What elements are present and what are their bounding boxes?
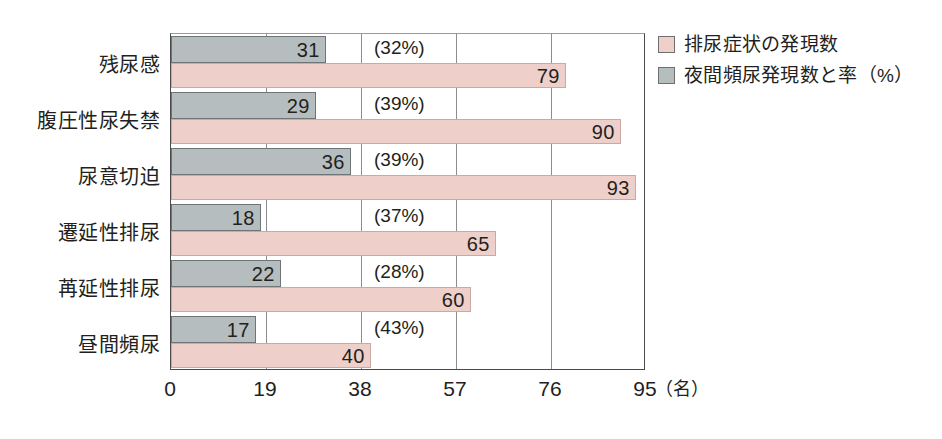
bar-value-label: 40 <box>342 346 365 366</box>
legend-item: 夜間頻尿発現数と率（%） <box>658 64 938 86</box>
category-label: 残尿感 <box>0 55 160 75</box>
bar-group: 3179(32%) <box>171 36 644 88</box>
category-label: 腹圧性尿失禁 <box>0 111 160 131</box>
bar-value-label: 29 <box>287 96 310 116</box>
bar-group: 2260(28%) <box>171 260 644 312</box>
bar-value-label: 90 <box>592 122 615 142</box>
x-axis-ticks: （名） 01938577695 <box>0 372 942 404</box>
percent-annotation: (32%) <box>374 38 425 57</box>
bar-group: 2990(39%) <box>171 92 644 144</box>
bar-urinary-symptoms: 90 <box>171 119 621 144</box>
percent-annotation: (39%) <box>374 94 425 113</box>
bar-value-label: 22 <box>252 264 275 284</box>
percent-annotation: (37%) <box>374 206 425 225</box>
plot-area: 3179(32%)2990(39%)3693(39%)1865(37%)2260… <box>170 33 645 370</box>
percent-annotation: (28%) <box>374 262 425 281</box>
bar-value-label: 79 <box>537 66 560 86</box>
x-tick-label: 95 <box>633 378 656 399</box>
bar-nocturia: 22 <box>171 260 281 287</box>
x-tick-label: 76 <box>538 378 561 399</box>
percent-annotation: (39%) <box>374 150 425 169</box>
percent-annotation: (43%) <box>374 318 425 337</box>
legend-swatch <box>658 67 675 84</box>
bar-urinary-symptoms: 40 <box>171 343 371 368</box>
bar-group: 1740(43%) <box>171 316 644 368</box>
bar-group: 1865(37%) <box>171 204 644 256</box>
category-label: 遷延性排尿 <box>0 223 160 243</box>
category-label: 昼間頻尿 <box>0 335 160 355</box>
category-axis-labels: 残尿感腹圧性尿失禁尿意切迫遷延性排尿苒延性排尿昼間頻尿 <box>0 33 160 370</box>
x-tick-label: 38 <box>348 378 371 399</box>
bar-value-label: 17 <box>227 320 250 340</box>
bar-value-label: 18 <box>232 208 255 228</box>
bar-nocturia: 36 <box>171 148 351 175</box>
bar-value-label: 93 <box>607 178 630 198</box>
category-label: 苒延性排尿 <box>0 279 160 299</box>
bar-group: 3693(39%) <box>171 148 644 200</box>
legend-label: 夜間頻尿発現数と率（%） <box>684 66 914 85</box>
bar-value-label: 36 <box>322 152 345 172</box>
x-tick-label: 0 <box>164 378 176 399</box>
x-tick-label: 19 <box>253 378 276 399</box>
bar-urinary-symptoms: 79 <box>171 63 566 88</box>
bar-value-label: 31 <box>297 40 320 60</box>
bar-nocturia: 17 <box>171 316 256 343</box>
bar-urinary-symptoms: 60 <box>171 287 471 312</box>
legend-label: 排尿症状の発現数 <box>684 35 838 54</box>
legend-swatch <box>658 36 675 53</box>
bar-chart: 残尿感腹圧性尿失禁尿意切迫遷延性排尿苒延性排尿昼間頻尿 3179(32%)299… <box>0 0 942 439</box>
bar-nocturia: 31 <box>171 36 326 63</box>
x-tick-label: 57 <box>443 378 466 399</box>
category-label: 尿意切迫 <box>0 167 160 187</box>
bar-value-label: 60 <box>442 290 465 310</box>
legend-item: 排尿症状の発現数 <box>658 33 938 55</box>
bar-urinary-symptoms: 65 <box>171 231 496 256</box>
bar-nocturia: 29 <box>171 92 316 119</box>
bar-value-label: 65 <box>467 234 490 254</box>
bar-urinary-symptoms: 93 <box>171 175 636 200</box>
chart-legend: 排尿症状の発現数夜間頻尿発現数と率（%） <box>658 33 938 95</box>
x-axis-unit-label: （名） <box>655 380 709 398</box>
bar-nocturia: 18 <box>171 204 261 231</box>
